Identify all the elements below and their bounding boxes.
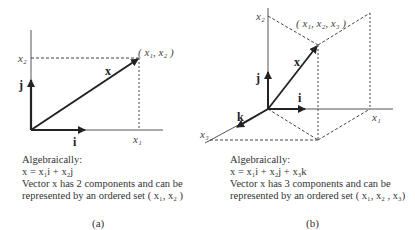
x-vector-label: x [294, 55, 300, 69]
diagram-2d: x₂ x₁ j i x ( x₁, x₂ ) [17, 30, 174, 149]
i-label: i [298, 91, 302, 105]
x2-axis-label: x₂ [17, 52, 27, 64]
point-label: ( x₁, x₂, x₃ ) [296, 17, 346, 30]
x-vector [268, 46, 317, 109]
x1-axis-label: x₁ [132, 133, 142, 145]
caption-b: Algebraically: x = x₁i + x₂j + x₃k Vecto… [230, 154, 405, 202]
sub-label-b: (b) [306, 217, 319, 229]
caption-line-2: represented by an ordered set ( x₁, x₂ ,… [230, 190, 405, 202]
x2-axis-label: x₂ [255, 10, 265, 22]
caption-line-1: Vector x has 2 components and can be [22, 178, 183, 190]
caption-heading: Algebraically: [22, 154, 183, 166]
x1-axis-label: x₁ [371, 111, 381, 123]
point-label: ( x₁, x₂ ) [138, 46, 174, 59]
caption-heading: Algebraically: [230, 154, 405, 166]
j-label: j [255, 71, 260, 85]
x-vector [31, 59, 138, 130]
caption-line-2: represented by an ordered set ( x₁, x₂ ) [22, 190, 183, 202]
i-label: i [73, 135, 77, 149]
sub-label-a: (a) [92, 217, 104, 229]
caption-line-1: Vector x has 3 components and can be [230, 178, 405, 190]
caption-a: Algebraically: x = x₁i + x₂j Vector x ha… [22, 154, 183, 202]
j-label: j [18, 78, 23, 92]
caption-equation: x = x₁i + x₂j + x₃k [230, 166, 405, 178]
x3-axis-label: x₃ [199, 128, 209, 140]
dash-floor-left [268, 109, 318, 140]
diagram-3d: x₂ x₁ x₃ j i k x ( x₁, x₂, x₃ ) [199, 8, 393, 143]
dash-floor-right [318, 109, 370, 140]
caption-equation: x = x₁i + x₂j [22, 166, 183, 178]
k-label: k [237, 110, 244, 124]
vector-diagrams: x₂ x₁ j i x ( x₁, x₂ ) x₂ x₁ x₃ j i k x … [0, 0, 415, 150]
x-vector-label: x [105, 64, 111, 78]
